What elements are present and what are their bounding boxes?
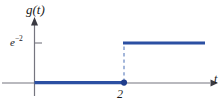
endpoint-dot bbox=[121, 80, 127, 86]
y-tick-exponent: −2 bbox=[15, 34, 23, 43]
y-axis-label: g(t) bbox=[26, 3, 45, 16]
y-tick-label: e−2 bbox=[10, 35, 22, 48]
x-tick-label: 2 bbox=[117, 88, 123, 100]
step-function-figure: g(t) t e−2 2 bbox=[0, 0, 224, 108]
y-axis-arrowhead bbox=[31, 17, 38, 26]
x-axis-label: t bbox=[214, 73, 217, 85]
